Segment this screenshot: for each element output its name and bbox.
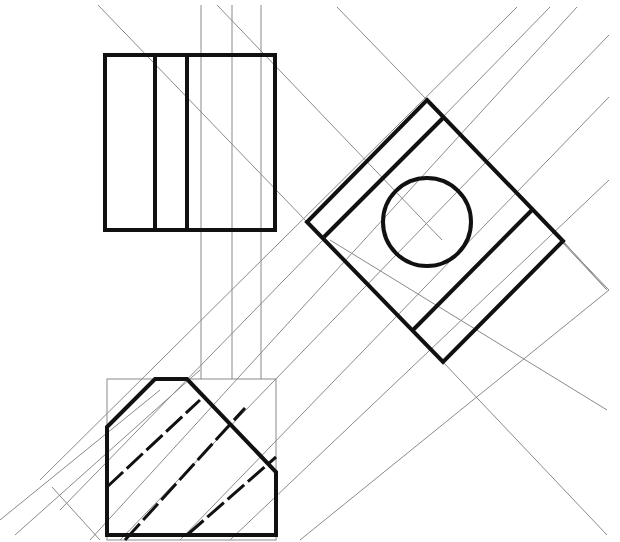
top-outline: [107, 379, 276, 535]
construction-line: [337, 7, 427, 100]
front-outline: [105, 55, 275, 230]
construction-line: [0, 390, 160, 520]
construction-line: [217, 5, 442, 240]
construction-line: [230, 180, 609, 540]
hidden-line: [125, 408, 245, 540]
construction-line: [443, 362, 607, 535]
construction-lines: [0, 5, 609, 540]
front-view: [105, 55, 275, 230]
drawing-svg: [0, 0, 620, 542]
hidden-line: [187, 457, 276, 535]
construction-line: [90, 7, 577, 540]
construction-line: [300, 290, 609, 540]
technical-drawing: [0, 0, 620, 542]
construction-line: [40, 7, 517, 480]
aux-hole-circle: [383, 178, 471, 266]
top-view: [107, 379, 276, 540]
construction-line: [563, 241, 607, 290]
construction-line: [60, 7, 550, 510]
construction-line: [180, 97, 609, 540]
